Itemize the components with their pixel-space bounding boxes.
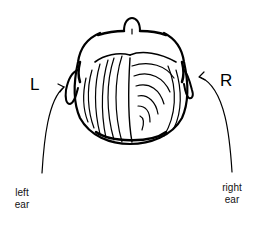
- left-ear-label: left ear: [12, 187, 32, 211]
- right-arrow: [200, 77, 232, 172]
- head-outline: [75, 33, 188, 144]
- left-ear-label-line1: left: [12, 187, 32, 199]
- right-ear-label-line1: right: [217, 182, 247, 194]
- right-ear-label-line2: ear: [217, 194, 247, 206]
- right-ear-label: right ear: [217, 182, 247, 206]
- left-ear-label-line2: ear: [12, 199, 32, 211]
- left-letter-label: L: [30, 76, 39, 93]
- left-arrow: [42, 87, 64, 173]
- right-letter-label: R: [220, 72, 232, 89]
